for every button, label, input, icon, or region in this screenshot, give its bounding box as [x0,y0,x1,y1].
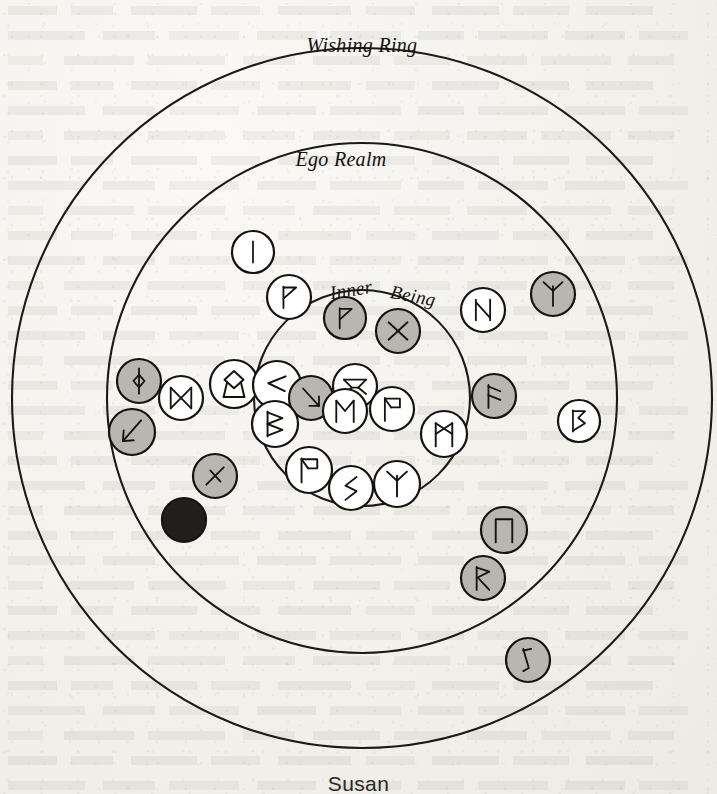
token-disc [461,556,505,600]
token-disc [324,297,366,339]
token-disc [267,275,311,319]
rune-token-algiz[interactable] [531,272,575,316]
label-inner-being-line1: Inner [327,276,374,304]
rune-token-laguz-arrow[interactable] [109,409,155,455]
token-disc [286,447,332,493]
rune-token-wunjo[interactable] [286,447,332,493]
rune-token-ingwaz-dot[interactable] [117,359,161,403]
token-disc [210,360,258,408]
rune-token-wunjo[interactable] [370,387,414,431]
rune-token-othala[interactable] [210,360,258,408]
label-inner-being-line2: Being [389,281,438,310]
token-disc [252,401,298,447]
token-disc [481,507,527,553]
token-disc [370,387,414,431]
rune-token-dagaz[interactable] [159,376,203,420]
figure-caption: Susan [0,772,717,794]
rune-token-nauthiz[interactable] [193,454,237,498]
rune-cast-diagram: Wishing RingEgo RealmInnerBeing [0,0,717,794]
rune-token-thurisaz[interactable] [267,275,311,319]
rune-token-perthro[interactable] [558,400,600,442]
rune-token-gebo-ring[interactable] [376,309,420,353]
rune-token-isa[interactable] [232,231,274,273]
rune-token-thurisaz[interactable] [324,297,366,339]
rune-token-uruz[interactable] [481,507,527,553]
rune-token-blank[interactable] [162,498,206,542]
rune-token-ehwaz[interactable] [323,389,367,433]
token-disc [162,498,206,542]
token-disc [472,374,516,418]
rune-token-berkana[interactable] [252,401,298,447]
label-wishing-ring: Wishing Ring [307,34,418,57]
scanned-page: Wishing RingEgo RealmInnerBeing Susan [0,0,717,794]
token-disc [421,411,467,457]
rune-token-algiz[interactable] [374,461,420,507]
token-disc [558,400,600,442]
label-ego-realm: Ego Realm [294,148,386,171]
ring-labels: Wishing RingEgo RealmInnerBeing [294,34,437,310]
rune-token-laguz[interactable] [506,638,550,682]
rune-token-mannaz[interactable] [421,411,467,457]
token-disc [506,638,550,682]
rune-token-raidho[interactable] [461,556,505,600]
rune-token-ansuz[interactable] [472,374,516,418]
rune-token-sowilo[interactable] [329,466,373,510]
rune-token-hagalaz[interactable] [461,288,505,332]
